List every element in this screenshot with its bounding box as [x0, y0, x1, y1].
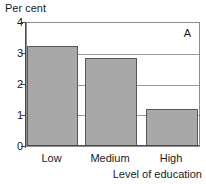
y-tick-label-4: 4 [9, 17, 23, 28]
bar-chart-panel-a: Per cent A 4 3 2 1 0 Low Medium High Lev… [0, 0, 206, 184]
y-axis-line [25, 22, 26, 148]
panel-label: A [184, 28, 191, 39]
bar-low[interactable] [27, 46, 78, 146]
y-axis-title: Per cent [5, 2, 46, 14]
x-category-label-low: Low [26, 152, 77, 164]
y-tick-label-1: 1 [9, 110, 23, 121]
bar-medium[interactable] [85, 58, 137, 146]
plot-area: A [26, 22, 200, 147]
bar-high[interactable] [146, 109, 198, 146]
x-category-label-high: High [145, 152, 197, 164]
y-tick-label-2: 2 [9, 79, 23, 90]
x-axis-title: Level of education [113, 168, 202, 180]
y-tick-label-0: 0 [9, 141, 23, 152]
x-axis-line [27, 145, 199, 146]
x-category-label-medium: Medium [84, 152, 136, 164]
y-tick-label-3: 3 [9, 48, 23, 59]
